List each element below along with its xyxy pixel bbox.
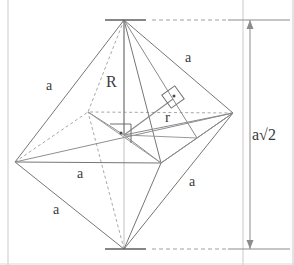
dimension-arrowhead-top — [247, 20, 254, 29]
center-to-edge-midpoint — [124, 135, 197, 138]
right-angle-dot-center — [120, 132, 123, 135]
edge-left-front — [15, 162, 161, 163]
edge-label-upper-right: a — [185, 51, 191, 65]
inradius-label: r — [165, 110, 170, 125]
edge-top-right — [124, 20, 233, 113]
dimension-arrowhead-bottom — [247, 240, 254, 249]
edge-bottom-left — [15, 162, 124, 249]
edge-label-mid-left: a — [77, 167, 83, 181]
edge-bottom-front — [124, 163, 161, 249]
edge-label-lower-right: a — [189, 175, 195, 189]
hidden-edge-left-back — [15, 112, 88, 162]
hidden-edge-top-back — [88, 20, 124, 112]
edge-label-upper-left: a — [46, 79, 52, 93]
octahedron-diagram — [0, 0, 294, 265]
face-median-apex-to-edge-midpoint — [124, 20, 197, 138]
hidden-edge-bottom-back — [88, 112, 124, 249]
circumradius-label: R — [106, 74, 117, 90]
height-dimension-label: a√2 — [252, 127, 276, 143]
edge-label-lower-left: a — [53, 203, 59, 217]
right-angle-dot-face — [173, 95, 176, 98]
hidden-edge-right-back — [88, 112, 233, 113]
figure-canvas: a a a a a R r a√2 — [0, 0, 294, 265]
